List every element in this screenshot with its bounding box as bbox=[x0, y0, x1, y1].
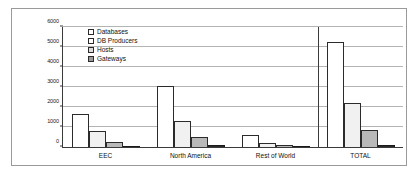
legend-item-gateways: Gateways bbox=[88, 56, 137, 63]
y-axis-tick-label: 1000 bbox=[47, 118, 59, 124]
y-axis-tick-label: 3000 bbox=[47, 78, 59, 84]
bar-north-america-db-producers[interactable] bbox=[174, 121, 191, 147]
bar-eec-hosts[interactable] bbox=[106, 142, 123, 147]
bar-rest-of-world-databases[interactable] bbox=[242, 135, 259, 147]
bar-eec-gateways[interactable] bbox=[123, 146, 140, 148]
bar-total-databases[interactable] bbox=[327, 42, 344, 147]
y-axis-tick-label: 2000 bbox=[47, 98, 59, 104]
bar-total-db-producers[interactable] bbox=[344, 103, 361, 147]
x-axis-label-total: TOTAL bbox=[350, 152, 370, 159]
bar-north-america-gateways[interactable] bbox=[208, 145, 225, 147]
bar-total-hosts[interactable] bbox=[361, 130, 378, 147]
x-axis-label-rest-of-world: Rest of World bbox=[256, 152, 295, 159]
legend-item-hosts: Hosts bbox=[88, 47, 137, 54]
bar-north-america-databases[interactable] bbox=[157, 86, 174, 147]
legend-label-gateways: Gateways bbox=[97, 56, 126, 63]
bar-rest-of-world-gateways[interactable] bbox=[293, 146, 310, 148]
chart-legend: Databases DB Producers Hosts Gateways bbox=[88, 29, 137, 63]
chart-screenshot: Databases DB Producers Hosts Gateways 01… bbox=[0, 0, 420, 178]
bar-north-america-hosts[interactable] bbox=[191, 137, 208, 147]
group-separator bbox=[318, 27, 319, 147]
bar-rest-of-world-hosts[interactable] bbox=[276, 145, 293, 147]
x-axis-label-north-america: North America bbox=[170, 152, 211, 159]
bar-rest-of-world-db-producers[interactable] bbox=[259, 143, 276, 147]
legend-label-db-producers: DB Producers bbox=[97, 38, 137, 45]
y-axis-tick-label: 6000 bbox=[47, 18, 59, 24]
legend-swatch-icon-gateways bbox=[88, 56, 94, 62]
legend-item-db-producers: DB Producers bbox=[88, 38, 137, 45]
bar-total-gateways[interactable] bbox=[378, 145, 395, 147]
legend-label-hosts: Hosts bbox=[97, 47, 114, 54]
y-axis-tick-label: 0 bbox=[56, 138, 59, 144]
legend-label-databases: Databases bbox=[97, 29, 128, 36]
legend-swatch-icon-databases bbox=[88, 29, 94, 35]
bar-eec-databases[interactable] bbox=[72, 114, 89, 147]
legend-swatch-icon-db-producers bbox=[88, 38, 94, 44]
bar-group-north-america: North America bbox=[148, 27, 233, 147]
y-axis-tick-label: 5000 bbox=[47, 38, 59, 44]
bar-eec-db-producers[interactable] bbox=[89, 131, 106, 147]
legend-swatch-icon-hosts bbox=[88, 47, 94, 53]
bar-group-total: TOTAL bbox=[318, 27, 403, 147]
y-axis-tick-label: 4000 bbox=[47, 58, 59, 64]
bar-group-rest-of-world: Rest of World bbox=[233, 27, 318, 147]
figure-frame: Databases DB Producers Hosts Gateways 01… bbox=[11, 8, 407, 166]
legend-item-databases: Databases bbox=[88, 29, 137, 36]
x-axis-label-eec: EEC bbox=[99, 152, 112, 159]
